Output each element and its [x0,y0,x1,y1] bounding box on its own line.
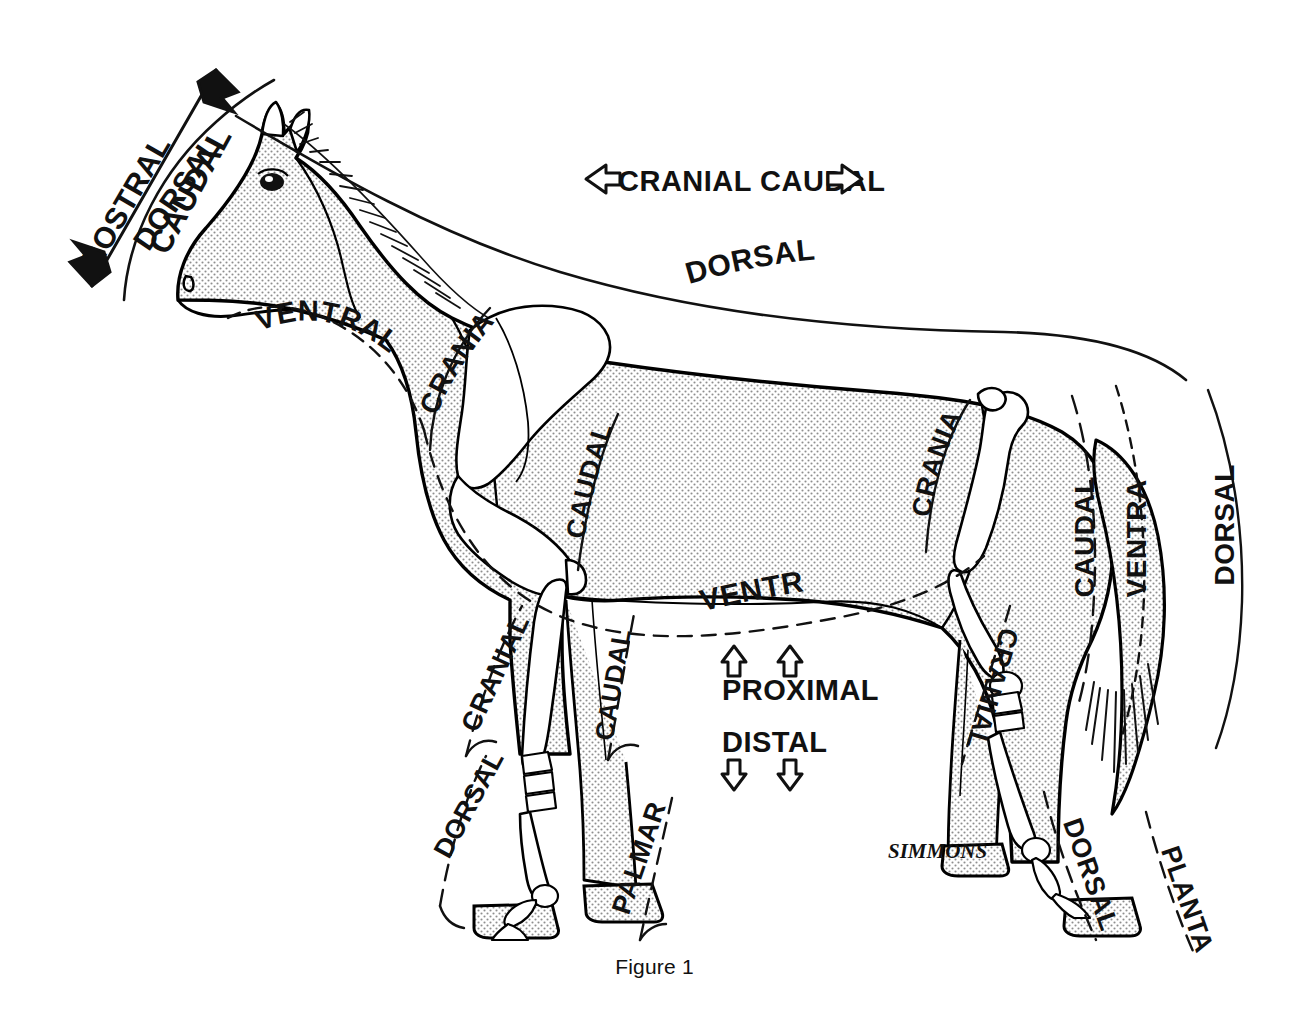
label-tail-dorsal: DORSAL [1209,464,1240,585]
legend-caudal: CAUDAL [760,165,885,197]
bone-carpus [522,752,556,812]
legend-caudal-label: CAUDAL [760,165,885,197]
figure-caption: Figure 1 [0,955,1309,979]
distal-arrow-icon-right [778,760,802,790]
legend-proximal-label: PROXIMAL [722,674,879,706]
legend-cranial: CRANIAL [586,165,752,197]
horse-eye-highlight [265,176,273,182]
horse-anatomy-diagram: ROSTRAL CAUDAL DORSAL VENTRAL DORSAL VEN… [0,0,1309,1035]
bracket-forefoot-bottom-left [440,906,464,928]
label-forefoot-dorsal: DORSAL [428,746,510,863]
bone-femur-head [978,388,1006,410]
legend-distal: DISTAL [722,726,828,790]
label-trunk-dorsal: DORSAL [682,232,817,289]
legend-proximal: PROXIMAL [722,646,879,706]
proximal-arrow-icon-left [722,646,746,676]
artist-signature: SIMMONS [888,839,987,863]
figure-page: ROSTRAL CAUDAL DORSAL VENTRAL DORSAL VEN… [0,0,1309,1035]
cranial-arrow-icon [586,165,620,193]
legend-distal-label: DISTAL [722,726,828,758]
label-tail-caudal: CAUDAL [1069,476,1100,597]
horse-ear-left [262,102,283,136]
horse-eye [260,173,284,191]
proximal-arrow-icon-right [778,646,802,676]
distal-arrow-icon-left [722,760,746,790]
legend-cranial-label: CRANIAL [618,165,752,197]
